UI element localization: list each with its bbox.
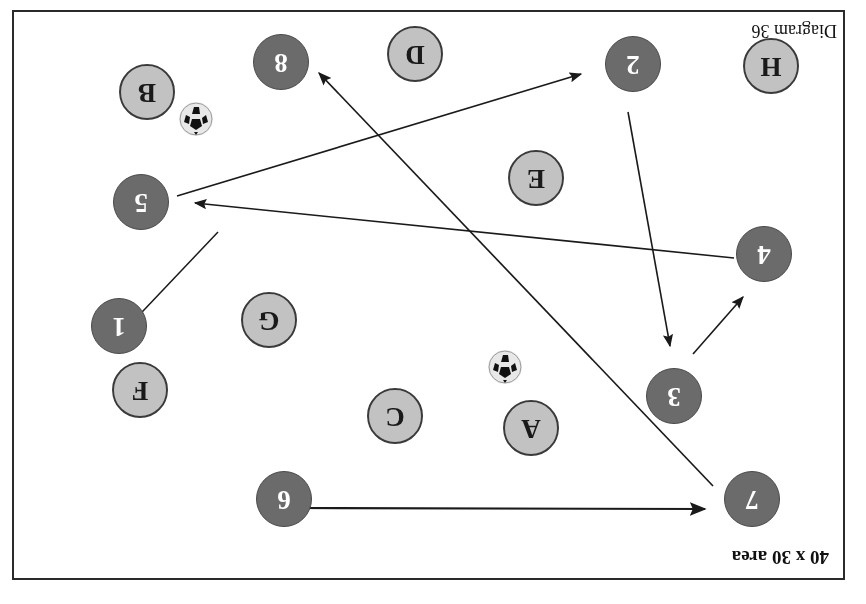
token-label: F — [132, 378, 149, 405]
defender-token-D[interactable]: D — [387, 26, 443, 82]
token-label: B — [138, 80, 156, 107]
token-label: C — [385, 404, 405, 431]
defender-token-H[interactable]: H — [743, 38, 799, 94]
diagram-canvas: 7 6 3 1 4 5 2 8 — [0, 0, 866, 604]
token-label: 7 — [745, 487, 759, 514]
soccer-ball-glyph — [179, 102, 213, 136]
token-label: H — [761, 54, 782, 81]
defender-token-E[interactable]: E — [508, 150, 564, 206]
field-content-rotated: 7 6 3 1 4 5 2 8 — [14, 12, 847, 582]
arrow-run-3-to-4 — [693, 297, 743, 354]
token-label: D — [405, 42, 425, 69]
token-label: E — [527, 166, 545, 193]
token-label: 8 — [274, 50, 288, 77]
token-label: 1 — [112, 314, 126, 341]
attacker-token-5[interactable]: 5 — [113, 174, 169, 230]
arrow-run-2-to-3 — [628, 112, 670, 346]
field-frame: 7 6 3 1 4 5 2 8 — [12, 10, 845, 580]
attacker-token-2[interactable]: 2 — [605, 36, 661, 92]
diagram-title-caption: Diagram 36 — [752, 20, 837, 41]
token-label: 6 — [277, 487, 291, 514]
soccer-ball-icon — [179, 102, 213, 136]
defender-token-C[interactable]: C — [367, 388, 423, 444]
soccer-ball-glyph — [488, 350, 522, 384]
defender-token-G[interactable]: G — [241, 292, 297, 348]
defender-token-A[interactable]: A — [503, 400, 559, 456]
attacker-token-8[interactable]: 8 — [253, 34, 309, 90]
defender-token-B[interactable]: B — [119, 64, 175, 120]
token-label: A — [521, 416, 541, 443]
token-label: 4 — [757, 242, 771, 269]
token-label: 2 — [626, 52, 640, 79]
attacker-token-4[interactable]: 4 — [736, 226, 792, 282]
token-label: 5 — [134, 190, 148, 217]
attacker-token-3[interactable]: 3 — [646, 368, 702, 424]
attacker-token-7[interactable]: 7 — [724, 471, 780, 527]
token-label: 3 — [667, 384, 681, 411]
arrow-pass-6-to-7 — [294, 508, 705, 509]
soccer-ball-icon — [488, 350, 522, 384]
defender-token-F[interactable]: F — [112, 362, 168, 418]
attacker-token-6[interactable]: 6 — [256, 471, 312, 527]
attacker-token-1[interactable]: 1 — [91, 298, 147, 354]
token-label: G — [259, 308, 280, 335]
area-size-caption: 40 x 30 area — [732, 546, 829, 568]
